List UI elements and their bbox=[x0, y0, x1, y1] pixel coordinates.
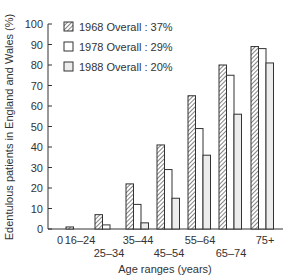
y-tick-label: 20 bbox=[31, 182, 43, 194]
bar-25–34-1978 bbox=[103, 225, 111, 229]
bar-chart: Edentulous patients in England and Wales… bbox=[0, 0, 286, 275]
y-tick-label: 80 bbox=[31, 59, 43, 71]
bar-65–74-1968 bbox=[219, 65, 227, 229]
y-tick-label: 70 bbox=[31, 80, 43, 92]
x-zero-label: 0 bbox=[57, 234, 63, 246]
bar-35–44-1968 bbox=[126, 184, 134, 229]
bars bbox=[66, 47, 274, 229]
legend-swatch bbox=[64, 22, 73, 31]
y-tick-label: 0 bbox=[37, 223, 43, 235]
bar-75+-1978 bbox=[259, 49, 267, 229]
bar-55–64-1978 bbox=[196, 129, 204, 229]
bar-65–74-1978 bbox=[227, 75, 235, 229]
bar-16–24-1968 bbox=[66, 227, 74, 229]
bar-45–54-1988 bbox=[172, 198, 180, 229]
x-tick-label: 75+ bbox=[256, 234, 275, 246]
y-tick-label: 50 bbox=[31, 121, 43, 133]
x-tick-label: 55–64 bbox=[185, 234, 216, 246]
bar-55–64-1988 bbox=[203, 155, 211, 229]
bar-35–44-1988 bbox=[141, 223, 149, 229]
y-tick-label: 90 bbox=[31, 39, 43, 51]
y-tick-label: 100 bbox=[25, 18, 43, 30]
x-tick-label: 65–74 bbox=[216, 247, 247, 259]
y-tick-label: 10 bbox=[31, 203, 43, 215]
x-axis-title: Age ranges (years) bbox=[118, 263, 212, 275]
y-tick-label: 60 bbox=[31, 100, 43, 112]
y-tick-label: 40 bbox=[31, 141, 43, 153]
legend: 1968 Overall : 37%1978 Overall : 29%1988… bbox=[64, 21, 173, 73]
bar-65–74-1988 bbox=[234, 114, 242, 229]
x-axis-labels: 016–2425–3435–4445–5455–6465–7475+Age ra… bbox=[57, 234, 274, 275]
y-axis-title: Edentulous patients in England and Wales… bbox=[3, 14, 15, 240]
bar-45–54-1978 bbox=[165, 170, 173, 229]
x-tick-label: 16–24 bbox=[65, 234, 96, 246]
y-axis-title-text: Edentulous patients in England and Wales… bbox=[3, 14, 15, 240]
x-tick-label: 25–34 bbox=[94, 247, 125, 259]
bar-75+-1988 bbox=[266, 63, 274, 229]
y-tick-label: 30 bbox=[31, 162, 43, 174]
bar-75+-1968 bbox=[251, 47, 259, 229]
x-tick-label: 35–44 bbox=[123, 234, 154, 246]
legend-label: 1978 Overall : 29% bbox=[79, 41, 173, 53]
x-tick-label: 45–54 bbox=[154, 247, 185, 259]
bar-45–54-1968 bbox=[157, 145, 165, 229]
bar-55–64-1968 bbox=[188, 96, 196, 229]
bar-25–34-1968 bbox=[95, 215, 103, 229]
bar-35–44-1978 bbox=[134, 204, 142, 229]
legend-swatch bbox=[64, 42, 73, 51]
legend-label: 1968 Overall : 37% bbox=[79, 21, 173, 33]
legend-swatch bbox=[64, 62, 73, 71]
legend-label: 1988 Overall : 20% bbox=[79, 61, 173, 73]
